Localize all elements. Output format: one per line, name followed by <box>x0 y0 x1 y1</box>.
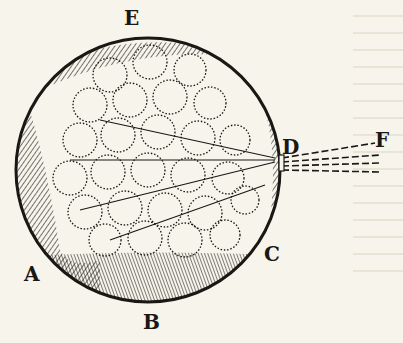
label-b: B <box>143 310 160 334</box>
label-d: D <box>282 135 299 159</box>
label-a: A <box>24 262 40 286</box>
label-f: F <box>375 128 389 152</box>
label-c: C <box>264 242 280 266</box>
sphere <box>0 0 290 343</box>
label-e: E <box>124 6 139 30</box>
sphere-engraving <box>0 0 403 343</box>
